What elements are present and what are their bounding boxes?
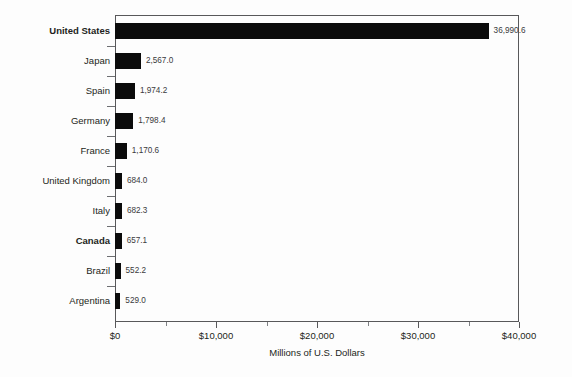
x-axis-tick <box>418 322 419 328</box>
plot-area <box>115 15 519 322</box>
bar <box>115 203 122 219</box>
category-label: Spain <box>6 83 110 99</box>
bar-value-label: 1,974.2 <box>140 83 167 99</box>
x-axis-tick-label: $0 <box>110 330 121 341</box>
x-axis-tick-label: $40,000 <box>502 330 536 341</box>
category-label: Japan <box>6 53 110 69</box>
x-axis-minor-tick <box>469 322 470 326</box>
bar <box>115 173 122 189</box>
bar <box>115 233 122 249</box>
x-axis-tick <box>519 322 520 328</box>
y-axis-tick <box>107 226 115 227</box>
bar-chart: United States36,990.6Japan2,567.0Spain1,… <box>0 0 572 377</box>
y-axis-tick <box>107 106 115 107</box>
x-axis-minor-tick <box>267 322 268 326</box>
y-axis-tick <box>107 166 115 167</box>
category-label: United Kingdom <box>6 173 110 189</box>
category-label: Germany <box>6 113 110 129</box>
y-axis-tick <box>107 196 115 197</box>
x-axis-minor-tick <box>166 322 167 326</box>
bar <box>115 53 141 69</box>
y-axis-tick <box>107 286 115 287</box>
bar-value-label: 552.2 <box>126 263 147 279</box>
category-label: France <box>6 143 110 159</box>
bar <box>115 263 121 279</box>
x-axis-tick-label: $20,000 <box>300 330 334 341</box>
bar-value-label: 657.1 <box>127 233 148 249</box>
category-label: Argentina <box>6 293 110 309</box>
x-axis-minor-tick <box>368 322 369 326</box>
y-axis-tick <box>107 76 115 77</box>
bar-value-label: 529.0 <box>125 293 146 309</box>
x-axis-tick <box>317 322 318 328</box>
x-axis-tick <box>216 322 217 328</box>
category-label: Canada <box>6 233 110 249</box>
category-label: Italy <box>6 203 110 219</box>
bar-value-label: 1,798.4 <box>138 113 165 129</box>
bar <box>115 113 133 129</box>
x-axis-tick-label: $30,000 <box>401 330 435 341</box>
bar-value-label: 1,170.6 <box>132 143 159 159</box>
bar <box>115 143 127 159</box>
category-label: United States <box>6 23 110 39</box>
bar-value-label: 682.3 <box>127 203 148 219</box>
y-axis-tick <box>107 256 115 257</box>
y-axis-tick <box>107 46 115 47</box>
bar-value-label: 2,567.0 <box>146 53 173 69</box>
y-axis-tick <box>107 136 115 137</box>
x-axis-tick <box>115 322 116 328</box>
bar <box>115 293 120 309</box>
bar-value-label: 36,990.6 <box>494 23 526 39</box>
bar-value-label: 684.0 <box>127 173 148 189</box>
category-label: Brazil <box>6 263 110 279</box>
x-axis-tick-label: $10,000 <box>199 330 233 341</box>
x-axis-title: Millions of U.S. Dollars <box>115 347 519 358</box>
bar <box>115 23 489 39</box>
bar <box>115 83 135 99</box>
